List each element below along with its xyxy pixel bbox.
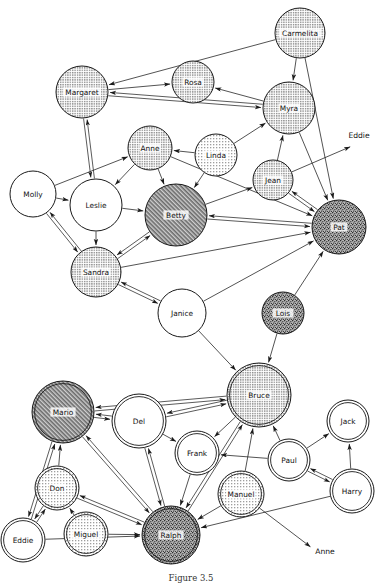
external-label-text: Eddie xyxy=(348,131,370,140)
external-label-anne: Anne xyxy=(315,547,335,556)
node-del[interactable]: Del xyxy=(112,394,166,448)
edge-paul-to-harry xyxy=(308,469,333,482)
node-sandra[interactable]: Sandra xyxy=(71,247,121,297)
node-label: Del xyxy=(133,417,145,426)
edge-del-to-frank xyxy=(163,434,176,441)
edge-margaret-to-leslie xyxy=(84,119,95,179)
node-paul[interactable]: Paul xyxy=(268,439,310,481)
node-label: Anne xyxy=(141,144,160,153)
node-anne[interactable]: Anne xyxy=(128,126,172,170)
node-label: Jack xyxy=(339,417,356,426)
node-label: Manuel xyxy=(228,490,255,499)
edge-frank-to-ralph xyxy=(180,474,190,505)
node-label: Betty xyxy=(166,211,186,220)
edge-mario-to-del xyxy=(94,414,112,419)
external-label-text: Anne xyxy=(315,547,335,556)
node-label: Molly xyxy=(23,190,43,199)
edge-betty-to-sandra xyxy=(117,232,150,259)
node-label: Miguel xyxy=(74,530,98,539)
node-frank[interactable]: Frank xyxy=(175,431,219,475)
node-label: Pat xyxy=(333,223,345,232)
edge-harry-to-jack xyxy=(349,444,350,469)
edge-molly-to-leslie xyxy=(56,198,68,200)
edge-manuel-to-ext-anne xyxy=(260,508,311,547)
edge-jean-to-ext-eddie xyxy=(292,147,350,172)
external-label-eddie: Eddie xyxy=(348,131,370,140)
edge-betty-to-jean xyxy=(206,187,253,204)
edge-carmelita-to-myra xyxy=(293,58,296,80)
edge-paul-to-frank xyxy=(221,455,268,459)
edge-eddie-to-don xyxy=(35,506,46,522)
edge-janice-to-pat xyxy=(203,241,313,301)
node-molly[interactable]: Molly xyxy=(10,171,56,217)
edge-anne-to-leslie xyxy=(115,164,134,184)
edge-betty-to-pat xyxy=(207,216,311,227)
node-label: Lois xyxy=(276,309,291,318)
edge-jean-to-myra xyxy=(277,135,282,160)
network-graph: CarmelitaMargaretRosaMyraAnneLindaJeanMo… xyxy=(0,0,382,586)
node-label: Jean xyxy=(264,176,281,185)
edge-myra-to-rosa xyxy=(215,88,263,101)
edge-margaret-to-rosa xyxy=(108,84,170,90)
node-lois[interactable]: Lois xyxy=(262,292,304,334)
node-jack[interactable]: Jack xyxy=(327,400,369,442)
node-rosa[interactable]: Rosa xyxy=(172,61,214,103)
edge-jean-to-pat xyxy=(289,191,318,211)
edge-carmelita-to-pat xyxy=(305,58,333,199)
edge-anne-to-betty xyxy=(158,169,164,184)
node-carmelita[interactable]: Carmelita xyxy=(275,8,325,58)
node-miguel[interactable]: Miguel xyxy=(64,512,108,556)
node-bruce[interactable]: Bruce xyxy=(227,363,291,427)
node-label: Ralph xyxy=(161,531,182,540)
edge-lois-to-bruce xyxy=(269,334,277,363)
edge-myra-to-pat xyxy=(299,132,328,200)
node-manuel[interactable]: Manuel xyxy=(218,471,264,517)
node-label: Sandra xyxy=(83,268,109,277)
node-label: Eddie xyxy=(13,536,34,545)
edge-sandra-to-janice xyxy=(118,282,160,303)
node-label: Janice xyxy=(170,309,194,318)
node-janice[interactable]: Janice xyxy=(158,289,206,337)
node-margaret[interactable]: Margaret xyxy=(56,66,108,118)
edge-janice-to-bruce xyxy=(199,331,236,370)
node-label: Mario xyxy=(53,408,74,417)
edge-linda-to-betty xyxy=(194,173,204,188)
edge-bruce-to-frank xyxy=(215,417,236,436)
edge-lois-to-pat xyxy=(295,251,323,295)
node-myra[interactable]: Myra xyxy=(263,82,315,134)
node-layer: CarmelitaMargaretRosaMyraAnneLindaJeanMo… xyxy=(1,8,374,564)
node-pat[interactable]: Pat xyxy=(312,200,366,254)
node-label: Leslie xyxy=(85,201,106,210)
edge-manuel-to-bruce xyxy=(245,428,253,470)
node-leslie[interactable]: Leslie xyxy=(70,179,122,231)
node-label: Linda xyxy=(206,151,226,160)
node-mario[interactable]: Mario xyxy=(32,381,94,443)
edge-paul-to-jack xyxy=(307,434,329,448)
node-linda[interactable]: Linda xyxy=(195,134,237,176)
edge-leslie-to-betty xyxy=(122,208,143,211)
node-label: Rosa xyxy=(184,78,202,87)
edge-del-to-ralph xyxy=(145,448,165,506)
node-label: Margaret xyxy=(65,88,98,97)
node-label: Harry xyxy=(342,487,363,496)
node-eddie[interactable]: Eddie xyxy=(1,518,45,562)
edge-sandra-to-pat xyxy=(121,232,310,267)
edge-don-to-mario xyxy=(59,445,61,466)
node-label: Paul xyxy=(281,456,296,465)
node-don[interactable]: Don xyxy=(35,466,79,510)
node-label: Frank xyxy=(187,449,208,458)
edge-linda-to-myra xyxy=(234,123,265,143)
node-ralph[interactable]: Ralph xyxy=(142,506,200,564)
edge-linda-to-anne xyxy=(174,151,195,153)
edge-manuel-to-ralph xyxy=(198,506,221,519)
edge-miguel-to-don xyxy=(70,508,74,515)
edge-bruce-to-del xyxy=(166,400,227,417)
node-label: Carmelita xyxy=(282,29,318,38)
node-label: Bruce xyxy=(248,391,270,400)
node-betty[interactable]: Betty xyxy=(145,184,207,246)
figure-caption: Figure 3.5 xyxy=(169,573,214,583)
node-label: Don xyxy=(50,484,65,493)
node-harry[interactable]: Harry xyxy=(330,469,374,513)
node-jean[interactable]: Jean xyxy=(253,160,293,200)
node-label: Myra xyxy=(280,104,298,113)
